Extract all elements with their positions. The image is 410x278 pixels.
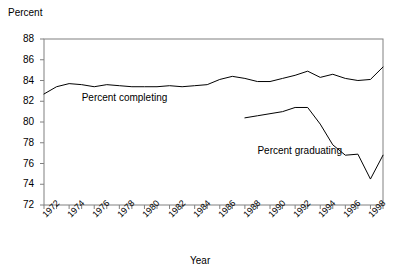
series-annotation: Percent graduating <box>257 145 342 156</box>
y-axis-tick-label: 78 <box>8 138 34 148</box>
y-axis-tick-label: 76 <box>8 159 34 169</box>
y-axis-tick-label: 88 <box>8 34 34 44</box>
y-axis-tick-label: 84 <box>8 76 34 86</box>
series-annotation: Percent completing <box>82 92 168 103</box>
y-axis-tick-label: 82 <box>8 96 34 106</box>
y-axis-label: Percent <box>8 7 42 19</box>
y-axis-tick-label: 80 <box>8 117 34 127</box>
series-line <box>245 107 383 179</box>
series-line <box>44 67 383 94</box>
y-axis-tick-label: 86 <box>8 55 34 65</box>
y-axis-tick-label: 74 <box>8 179 34 189</box>
x-axis-label: Year <box>190 255 210 267</box>
y-axis-tick-label: 72 <box>8 200 34 210</box>
chart-figure: Percent Year 727476788082848688197219741… <box>0 0 410 278</box>
plot-frame <box>44 39 383 205</box>
plot-canvas <box>0 0 410 278</box>
